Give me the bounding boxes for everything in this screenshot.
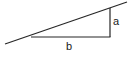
vertical-leg-label-a: a <box>113 16 119 27</box>
right-triangle-figure: a b <box>0 0 130 57</box>
triangle-drawing <box>0 0 130 57</box>
horizontal-leg-label-b: b <box>66 41 72 52</box>
hypotenuse-line <box>5 2 127 44</box>
